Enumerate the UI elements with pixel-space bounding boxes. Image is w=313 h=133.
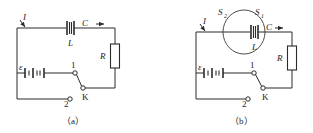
- surface-1-sub-b: 1: [261, 13, 264, 19]
- capacitor-inductor-b: [251, 25, 258, 39]
- figure-container: I C L R: [0, 0, 313, 133]
- switch-label-a: K: [82, 92, 89, 102]
- switch-contact-2-label-a: 2: [64, 99, 69, 109]
- switch-label-b: K: [262, 92, 269, 102]
- inductor-label-b: L: [251, 42, 257, 52]
- capacitor-inductor-a: [67, 21, 74, 35]
- switch-contact-1-label-a: 1: [71, 60, 76, 70]
- panel-b: S 2 S 1 I C L: [196, 7, 297, 126]
- resistor-label-b: R: [276, 53, 283, 63]
- surface-2-label-b: S: [218, 7, 223, 17]
- switch-contact-1-label-b: 1: [250, 60, 255, 70]
- emf-label-a: ε: [19, 62, 23, 72]
- switch-common-node-b[interactable]: [261, 86, 265, 90]
- capacitor-label-a: C: [82, 18, 89, 28]
- inductor-label-a: L: [67, 38, 73, 48]
- circuit-diagram-svg: I C L R: [0, 0, 313, 133]
- current-label-a: I: [22, 12, 27, 22]
- panel-b-wiring: [196, 32, 292, 99]
- caption-a: （a）: [62, 116, 84, 126]
- resistor-label-a: R: [99, 51, 106, 61]
- switch-blade-b[interactable]: [256, 75, 262, 87]
- capacitor-label-b: C: [266, 22, 273, 32]
- surface-2-sub-b: 2: [224, 13, 227, 19]
- panel-a-wiring: [17, 28, 115, 99]
- resistor-b: [288, 46, 297, 70]
- resistor-a: [111, 44, 120, 68]
- emf-label-b: ε: [198, 62, 202, 72]
- switch-common-node-a[interactable]: [81, 86, 85, 90]
- caption-b: （b）: [230, 116, 253, 126]
- panel-a: I C L R: [17, 12, 120, 126]
- surface-1-label-b: S: [255, 7, 260, 17]
- switch-contact-2-label-b: 2: [242, 99, 247, 109]
- current-label-b: I: [202, 16, 207, 26]
- switch-blade-a[interactable]: [77, 75, 82, 87]
- surface-2-label-group-b: S 2: [218, 7, 227, 19]
